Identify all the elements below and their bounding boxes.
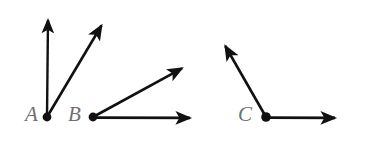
vertex-label-b: B xyxy=(68,104,81,125)
angle-b-group xyxy=(89,68,190,121)
angles-diagram xyxy=(0,0,376,147)
angles-figure: A B C xyxy=(0,0,376,147)
vertex-label-c: C xyxy=(238,104,252,125)
vertex-dot-c xyxy=(261,112,271,122)
ray-a-vertical xyxy=(47,20,48,117)
vertex-label-a: A xyxy=(25,104,38,125)
vertex-dot-b xyxy=(89,113,98,122)
vertex-dot-a xyxy=(43,113,52,122)
ray-b-diagonal xyxy=(93,68,182,117)
